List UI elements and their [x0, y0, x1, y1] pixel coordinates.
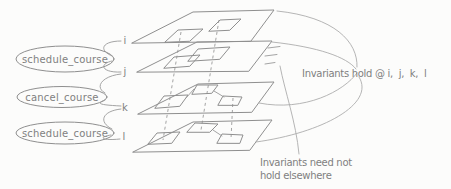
dashed-line-right [231, 98, 233, 139]
equivalence-dash [265, 63, 275, 65]
equivalence-dash [268, 47, 280, 49]
state-link [213, 130, 222, 136]
plane-l [133, 120, 272, 152]
plane-i-shapes [165, 19, 241, 42]
state-link [214, 91, 224, 97]
plane-i [132, 10, 274, 43]
annotation-invariants-not-line1: Invariants need not [260, 157, 352, 168]
leader-line-not-hold [280, 66, 299, 154]
brace-e2-lower [100, 100, 121, 106]
annotation-invariants-hold: Invariants hold @ i, j, k, l [302, 68, 426, 79]
time-label-j: j [123, 66, 127, 77]
diagram-svg: schedule_course cancel_course schedule_c… [0, 0, 451, 189]
event-ellipses: schedule_course cancel_course schedule_c… [16, 46, 114, 144]
state-shape [188, 47, 230, 61]
annotation-invariants-not-line2: hold elsewhere [260, 170, 332, 181]
plane-l-shapes [148, 123, 243, 144]
brace-e3-upper [104, 109, 121, 129]
plane-j [137, 41, 272, 72]
event-label-schedule-course-1: schedule_course [22, 54, 108, 66]
time-labels: i j k l [122, 35, 128, 142]
time-label-k: k [122, 102, 128, 113]
dashed-line-left [163, 32, 181, 140]
plane-k-shapes [155, 85, 242, 108]
annotations: Invariants hold @ i, j, k, l Invariants … [260, 68, 426, 181]
plane-j-shapes [164, 47, 230, 68]
state-shape [164, 55, 200, 68]
state-shape [192, 85, 218, 94]
state-shape [209, 19, 241, 31]
invariants-diagram: schedule_course cancel_course schedule_c… [0, 0, 451, 189]
state-planes [132, 10, 274, 152]
time-label-l: l [123, 131, 126, 142]
arc-from-plane-i [277, 11, 357, 67]
arc-from-plane-j [272, 42, 356, 69]
equivalence-dashes [265, 47, 280, 65]
dashed-line-middle [201, 20, 219, 130]
time-label-i: i [124, 35, 127, 46]
event-label-cancel-course: cancel_course [25, 92, 98, 104]
event-label-schedule-course-2: schedule_course [22, 128, 108, 140]
brace-e2-upper [100, 74, 121, 93]
equivalence-dash [265, 55, 277, 57]
arc-from-plane-l [256, 77, 362, 142]
state-shape [218, 96, 242, 105]
state-shape [165, 29, 203, 42]
